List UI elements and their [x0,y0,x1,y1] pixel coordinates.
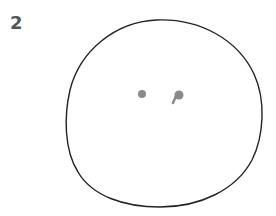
left-dot [138,90,146,98]
right-p-mark [173,91,184,104]
hand-drawn-figure [0,0,276,216]
circle-outline [66,20,262,207]
